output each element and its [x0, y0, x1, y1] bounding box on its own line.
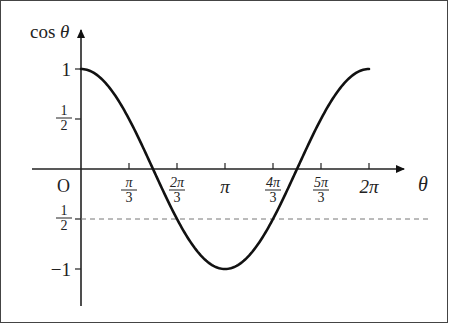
svg-text:2π: 2π [170, 175, 185, 190]
origin-label: O [57, 176, 70, 196]
svg-text:3: 3 [270, 190, 277, 205]
svg-text:2: 2 [61, 118, 68, 133]
x-axis-label: θ [418, 173, 428, 195]
svg-text:2π: 2π [359, 176, 379, 197]
x-tick-label: 2π [359, 176, 379, 197]
y-tick-label: 12 [56, 103, 72, 133]
svg-text:3: 3 [126, 190, 133, 205]
svg-text:1: 1 [61, 203, 68, 218]
x-tick-label: 4π3 [265, 175, 281, 205]
x-tick-label: 2π3 [169, 175, 185, 205]
svg-text:2: 2 [61, 218, 68, 233]
y-tick-label: 1 [62, 59, 72, 80]
svg-text:π: π [125, 175, 133, 190]
svg-text:1: 1 [61, 103, 68, 118]
svg-text:3: 3 [318, 190, 325, 205]
cosine-chart: π32π3π4π35π32π11212−1 cos θ θ O [0, 0, 463, 327]
x-tick-label: π [220, 176, 230, 197]
y-axis-label: cos θ [30, 21, 69, 42]
x-tick-label: 5π3 [313, 175, 329, 205]
svg-text:π: π [220, 176, 230, 197]
svg-text:−1: −1 [51, 259, 71, 280]
svg-text:3: 3 [174, 190, 181, 205]
svg-text:4π: 4π [266, 175, 281, 190]
y-tick-label: 12 [56, 203, 72, 233]
svg-text:1: 1 [62, 59, 72, 80]
x-tick-label: π3 [121, 175, 137, 205]
y-tick-label: −1 [51, 259, 71, 280]
svg-text:5π: 5π [314, 175, 329, 190]
